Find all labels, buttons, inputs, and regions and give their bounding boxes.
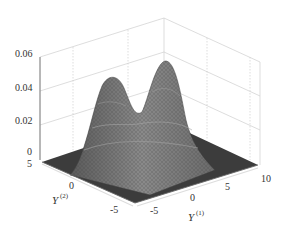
y1-tick-minus5: -5 bbox=[150, 205, 158, 216]
z-tick-0.04: 0.04 bbox=[15, 82, 33, 93]
surface-peaks bbox=[70, 61, 215, 195]
svg-text:Y: Y bbox=[188, 211, 196, 223]
y2-tick-0: 0 bbox=[69, 180, 74, 191]
y1-tick-5: 5 bbox=[225, 181, 230, 192]
svg-text:(1): (1) bbox=[196, 209, 205, 217]
y1-tick-10: 10 bbox=[261, 173, 271, 184]
svg-text:(2): (2) bbox=[60, 192, 69, 200]
y2-tick-minus5: -5 bbox=[110, 204, 118, 215]
z-tick-0: 0 bbox=[27, 146, 32, 157]
z-tick-0.06: 0.06 bbox=[15, 48, 33, 59]
z-axis-ticks: 0.06 0.04 0.02 0 bbox=[15, 48, 33, 157]
y2-tick-5: 5 bbox=[27, 158, 32, 169]
z-tick-0.02: 0.02 bbox=[15, 115, 33, 126]
y2-axis-label: Y (2) bbox=[52, 192, 69, 206]
y1-axis-label: Y (1) bbox=[188, 209, 205, 223]
svg-text:Y: Y bbox=[52, 194, 60, 206]
y1-tick-0: 0 bbox=[190, 192, 195, 203]
surface-plot: 0.06 0.04 0.02 0 5 0 -5 -5 0 5 10 Y (2) … bbox=[0, 0, 285, 236]
